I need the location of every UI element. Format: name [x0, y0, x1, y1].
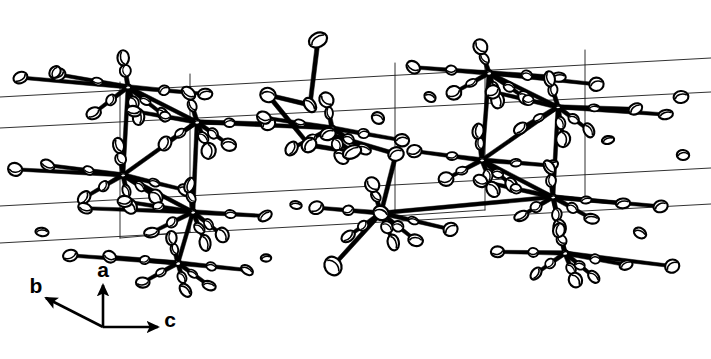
figure-background [0, 0, 711, 359]
thermal-ellipsoid [580, 196, 591, 204]
thermal-ellipsoid [589, 77, 604, 91]
thermal-ellipsoid [445, 85, 462, 101]
thermal-ellipsoid [676, 150, 689, 161]
axis-label-a: a [97, 258, 109, 281]
thermal-ellipsoid [550, 195, 556, 200]
thermal-ellipsoid [224, 209, 236, 218]
axis-label-b: b [30, 274, 43, 297]
thermal-ellipsoid [445, 65, 457, 76]
thermal-ellipsoid [166, 231, 177, 245]
thermal-ellipsoid [136, 277, 150, 288]
thermal-ellipsoid [510, 159, 521, 167]
thermal-ellipsoid [152, 202, 164, 212]
thermal-ellipsoid [546, 174, 557, 187]
thermal-ellipsoid [479, 158, 485, 163]
thermal-ellipsoid [261, 254, 272, 261]
thermal-ellipsoid [555, 105, 561, 109]
thermal-ellipsoid [491, 246, 504, 257]
thermal-ellipsoid [139, 255, 150, 265]
thermal-ellipsoid [616, 198, 631, 209]
thermal-ellipsoid [144, 227, 160, 238]
thermal-ellipsoid [175, 260, 181, 266]
ellipsoid-body [152, 202, 164, 212]
thermal-ellipsoid [224, 118, 235, 127]
thermal-ellipsoid [447, 152, 458, 160]
ortep-diagram-canvas: a b c [0, 0, 711, 359]
thermal-ellipsoid [342, 205, 354, 215]
ortep-figure: a b c [0, 0, 711, 359]
thermal-ellipsoid [119, 64, 131, 77]
thermal-ellipsoid [562, 250, 568, 256]
thermal-ellipsoid [439, 172, 454, 186]
thermal-ellipsoid [394, 133, 409, 147]
thermal-ellipsoid [325, 107, 333, 119]
thermal-ellipsoid [117, 195, 132, 207]
thermal-ellipsoid [358, 129, 369, 139]
thermal-ellipsoid [190, 209, 196, 214]
thermal-ellipsoid [125, 84, 131, 89]
thermal-ellipsoid [117, 50, 129, 65]
thermal-ellipsoid [588, 104, 599, 112]
thermal-ellipsoid [194, 119, 200, 124]
thermal-ellipsoid [35, 227, 49, 237]
ellipsoid-body [139, 255, 150, 265]
thermal-ellipsoid [486, 70, 492, 75]
axis-label-c: c [164, 308, 176, 331]
thermal-ellipsoid [555, 130, 571, 148]
ellipsoid-body [445, 85, 462, 101]
thermal-ellipsoid [198, 88, 213, 99]
thermal-ellipsoid [673, 90, 689, 103]
thermal-ellipsoid [120, 173, 126, 178]
thermal-ellipsoid [456, 166, 468, 175]
thermal-ellipsoid [407, 145, 422, 158]
